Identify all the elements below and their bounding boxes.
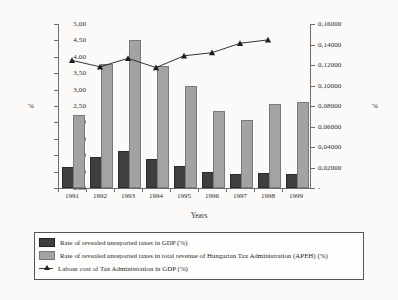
- line-triangle-swatch: [39, 264, 53, 273]
- plot-area: [58, 24, 310, 188]
- dark-square-swatch: [39, 238, 55, 247]
- y-axis-right-tick-label: 0,02000: [318, 164, 341, 172]
- x-axis-tick-label: 1992: [85, 192, 115, 200]
- y-axis-right-tick-label: 0,14000: [318, 41, 341, 49]
- x-axis-tick-label: 1993: [113, 192, 143, 200]
- x-axis-tick-label: 1996: [197, 192, 227, 200]
- y-axis-right-tick: [310, 168, 315, 169]
- y-axis-right-tick: [310, 147, 315, 148]
- x-axis-tick-label: 1999: [281, 192, 311, 200]
- legend-item-dark: Rate of revealed unreported taxes in GDP…: [39, 236, 359, 249]
- y-axis-right-tick-label: 0,12000: [318, 61, 341, 69]
- y-axis-right-tick-label: 0,06000: [318, 123, 341, 131]
- x-axis-tick-label: 1994: [141, 192, 171, 200]
- labour-cost-marker-1998: [265, 37, 271, 43]
- y-axis-right-tick: [310, 24, 315, 25]
- y-axis-right-tick-label: 0,08000: [318, 102, 341, 110]
- x-axis-title: Years: [0, 211, 398, 220]
- y-axis-right-tick-label: 0,10000: [318, 82, 341, 90]
- x-axis-line: [58, 188, 311, 189]
- legend-label-2: Rate of revealed unreported taxes in tot…: [60, 252, 328, 259]
- labour-cost-marker-1991: [69, 57, 75, 63]
- y-axis-right-tick: [310, 45, 315, 46]
- y-axis-left-unit-label: %: [28, 102, 34, 110]
- y-axis-right-tick: [310, 188, 315, 189]
- y-axis-right-tick-label: -: [318, 184, 320, 192]
- legend-label-3: Labour cost of Tax Administration in GDP…: [58, 265, 188, 272]
- x-axis-tick-label: 1998: [253, 192, 283, 200]
- legend-item-light: Rate of revealed unreported taxes in tot…: [39, 249, 359, 262]
- legend-label-1: Rate of revealed unreported taxes in GDP…: [60, 239, 187, 246]
- y-axis-right-tick: [310, 127, 315, 128]
- y-axis-right-tick-label: 0,04000: [318, 143, 341, 151]
- y-axis-right-tick-label: 0,16000: [318, 20, 341, 28]
- x-axis-tick-label: 1991: [57, 192, 87, 200]
- y-axis-right-unit-label: %: [372, 102, 378, 110]
- chart-figure: % % 0,000,501,001,502,002,503,003,504,00…: [0, 0, 398, 300]
- y-axis-right-tick: [310, 106, 315, 107]
- labour-cost-marker-1993: [125, 55, 131, 61]
- light-square-swatch: [39, 251, 55, 260]
- labour-cost-line-series: [58, 24, 310, 188]
- y-axis-right-tick: [310, 86, 315, 87]
- x-axis-tick-label: 1997: [225, 192, 255, 200]
- x-axis-tick-label: 1995: [169, 192, 199, 200]
- chart-legend: Rate of revealed unreported taxes in GDP…: [34, 232, 364, 280]
- legend-item-line: Labour cost of Tax Administration in GDP…: [39, 262, 359, 275]
- labour-cost-marker-1996: [209, 50, 215, 56]
- y-axis-right-tick: [310, 65, 315, 66]
